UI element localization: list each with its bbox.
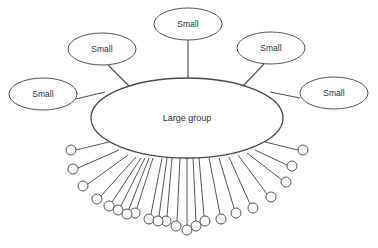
individual-member-circle[interactable] <box>200 216 210 226</box>
individual-member-circle[interactable] <box>113 205 123 215</box>
individual-member-circle[interactable] <box>92 194 102 204</box>
individual-member-circle[interactable] <box>281 177 291 187</box>
small-upper-right-label: Small <box>260 43 281 53</box>
member-spoke-line <box>247 153 282 180</box>
member-spoke-line <box>193 158 196 221</box>
member-spoke-line <box>167 158 172 216</box>
member-spoke-line <box>209 158 220 214</box>
member-spoke-line <box>265 142 298 150</box>
individual-member-circle[interactable] <box>122 209 132 219</box>
individual-member-circle[interactable] <box>216 214 226 224</box>
member-spoke-line <box>177 158 180 221</box>
individual-member-circle[interactable] <box>287 161 297 171</box>
individual-member-circle[interactable] <box>191 221 201 231</box>
member-spoke-line <box>88 155 128 184</box>
individual-member-circle[interactable] <box>298 145 308 155</box>
member-spoke-line <box>219 158 234 208</box>
connector-line-small-upper-right <box>241 64 264 88</box>
individual-member-circle[interactable] <box>66 145 76 155</box>
member-spoke-line <box>199 158 204 216</box>
individual-member-circle[interactable] <box>68 164 78 174</box>
individual-member-circle[interactable] <box>266 192 276 202</box>
individual-member-circle[interactable] <box>231 208 241 218</box>
member-spoke-line <box>78 150 119 168</box>
large-group-node-layer: Large group <box>91 78 283 158</box>
member-spoke-line <box>229 157 250 204</box>
member-spoke-line <box>101 157 136 196</box>
connector-line-small-left <box>76 92 105 99</box>
large-group-label: Large group <box>163 113 212 123</box>
individual-member-circle[interactable] <box>144 214 154 224</box>
member-spoke-line <box>238 155 267 194</box>
hub-and-spoke-diagram: Large group SmallSmallSmallSmallSmall <box>0 0 378 248</box>
individual-member-circle[interactable] <box>248 203 258 213</box>
individual-member-circle[interactable] <box>182 225 192 235</box>
member-spoke-line <box>76 142 109 150</box>
small-left-label: Small <box>32 89 53 99</box>
small-upper-left-label: Small <box>91 44 112 54</box>
small-right-label: Small <box>323 88 344 98</box>
individual-member-circle[interactable] <box>78 181 88 191</box>
individual-member-circle[interactable] <box>171 221 181 231</box>
small-top-label: Small <box>177 19 198 29</box>
connector-line-small-right <box>270 92 300 98</box>
diagram-canvas: Large group SmallSmallSmallSmallSmall <box>0 0 378 248</box>
individual-member-circle[interactable] <box>153 216 163 226</box>
individual-member-circle[interactable] <box>104 201 114 211</box>
connector-line-small-upper-left <box>108 65 131 88</box>
